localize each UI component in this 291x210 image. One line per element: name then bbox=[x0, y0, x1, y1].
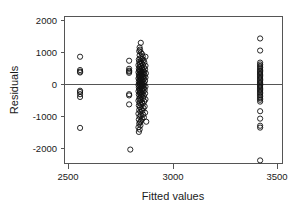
y-tick-label-1000: 1000 bbox=[36, 47, 57, 58]
x-axis-ticks bbox=[69, 164, 278, 169]
x-axis-tick-labels: 2500 3000 3500 bbox=[57, 171, 287, 182]
data-point bbox=[127, 102, 132, 107]
data-point bbox=[258, 36, 263, 41]
y-tick-label-0: 0 bbox=[52, 79, 57, 90]
data-point bbox=[77, 125, 82, 130]
data-point bbox=[128, 147, 133, 152]
data-point bbox=[258, 158, 263, 163]
y-axis-title: Residuals bbox=[8, 65, 20, 114]
data-points-group bbox=[77, 36, 262, 163]
data-point bbox=[258, 109, 263, 114]
x-tick-label-3000: 3000 bbox=[162, 171, 183, 182]
scatter-plot-canvas: 2000 1000 0 -1000 -2000 2500 3000 3500 F… bbox=[0, 0, 291, 210]
x-axis-title: Fitted values bbox=[142, 190, 205, 202]
data-point bbox=[77, 54, 82, 59]
residuals-vs-fitted-plot: 2000 1000 0 -1000 -2000 2500 3000 3500 F… bbox=[0, 0, 291, 210]
x-tick-label-2500: 2500 bbox=[57, 171, 78, 182]
y-tick-label-2000: 2000 bbox=[36, 15, 57, 26]
data-point bbox=[258, 48, 263, 53]
plot-frame bbox=[65, 17, 283, 164]
y-axis-ticks bbox=[61, 21, 65, 149]
data-point bbox=[127, 58, 132, 63]
y-tick-label-neg1000: -1000 bbox=[33, 111, 57, 122]
data-point bbox=[258, 116, 263, 121]
y-axis-tick-labels: 2000 1000 0 -1000 -2000 bbox=[33, 15, 57, 154]
data-point bbox=[144, 119, 149, 124]
x-tick-label-3500: 3500 bbox=[266, 171, 287, 182]
y-tick-label-neg2000: -2000 bbox=[33, 143, 57, 154]
